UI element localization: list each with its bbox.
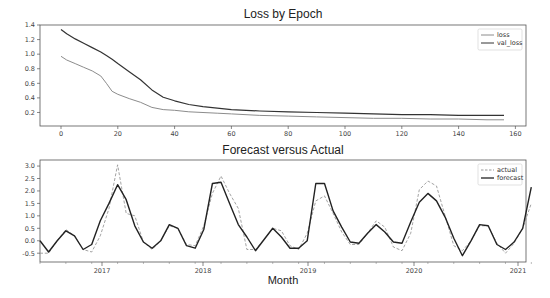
- y-tick-label: 0.6: [25, 80, 35, 88]
- y-tick-label: 0.4: [25, 94, 35, 102]
- loss-chart-title: Loss by Epoch: [244, 7, 323, 21]
- y-tick-label: 2.0: [25, 187, 35, 195]
- x-tick-label: 2020: [406, 267, 423, 275]
- forecast-chart-y-ticks: -0.50.00.51.01.52.02.53.0: [22, 162, 40, 257]
- legend-val-loss-label: val_loss: [497, 39, 523, 47]
- x-tick-label: 2021: [510, 267, 527, 275]
- series-actual: [40, 165, 531, 253]
- y-tick-label: 0.0: [25, 237, 35, 245]
- y-tick-label: 0.5: [25, 225, 35, 233]
- y-tick-label: 1.4: [25, 21, 35, 29]
- y-tick-label: 0.8: [25, 65, 35, 73]
- loss-chart-legend: loss val_loss: [478, 29, 523, 50]
- x-tick-label: 2019: [300, 267, 317, 275]
- y-tick-label: 1.5: [25, 200, 35, 208]
- legend-loss-label: loss: [497, 31, 510, 39]
- y-tick-label: -0.5: [22, 250, 35, 258]
- series-forecast: [40, 182, 531, 256]
- figure: Loss by Epoch 0.20.40.60.81.01.21.4 0204…: [0, 0, 550, 298]
- y-tick-label: 1.2: [25, 36, 35, 44]
- y-tick-label: 1.0: [25, 50, 35, 58]
- x-tick-label: 2017: [94, 267, 111, 275]
- forecast-chart-lines: [40, 165, 531, 256]
- forecast-chart-xlabel: Month: [268, 274, 299, 286]
- x-tick-label: 100: [339, 130, 351, 138]
- loss-chart: Loss by Epoch 0.20.40.60.81.01.21.4 0204…: [25, 7, 526, 138]
- forecast-chart-axes-frame: [40, 160, 526, 262]
- x-tick-label: 2018: [195, 267, 212, 275]
- y-tick-label: 1.0: [25, 212, 35, 220]
- y-tick-label: 2.5: [25, 175, 35, 183]
- x-tick-label: 80: [284, 130, 292, 138]
- x-tick-label: 20: [114, 130, 122, 138]
- legend-actual-label: actual: [497, 166, 517, 174]
- series-loss: [61, 56, 504, 120]
- forecast-chart-title: Forecast versus Actual: [222, 143, 343, 157]
- legend-forecast-label: forecast: [497, 174, 524, 182]
- x-tick-label: 60: [227, 130, 235, 138]
- x-tick-label: 40: [170, 130, 178, 138]
- loss-chart-axes-frame: [40, 25, 526, 126]
- forecast-chart: Forecast versus Actual -0.50.00.51.01.52…: [22, 143, 531, 286]
- x-tick-label: 120: [396, 130, 408, 138]
- loss-chart-y-ticks: 0.20.40.60.81.01.21.4: [25, 21, 40, 116]
- x-tick-label: 0: [59, 130, 63, 138]
- series-val-loss: [61, 29, 504, 115]
- loss-chart-lines: [61, 29, 504, 119]
- loss-chart-x-ticks: 020406080100120140160: [59, 126, 522, 138]
- x-tick-label: 160: [509, 130, 521, 138]
- y-tick-label: 3.0: [25, 162, 35, 170]
- y-tick-label: 0.2: [25, 109, 35, 117]
- x-tick-label: 140: [452, 130, 464, 138]
- forecast-chart-legend: actual forecast: [478, 164, 524, 185]
